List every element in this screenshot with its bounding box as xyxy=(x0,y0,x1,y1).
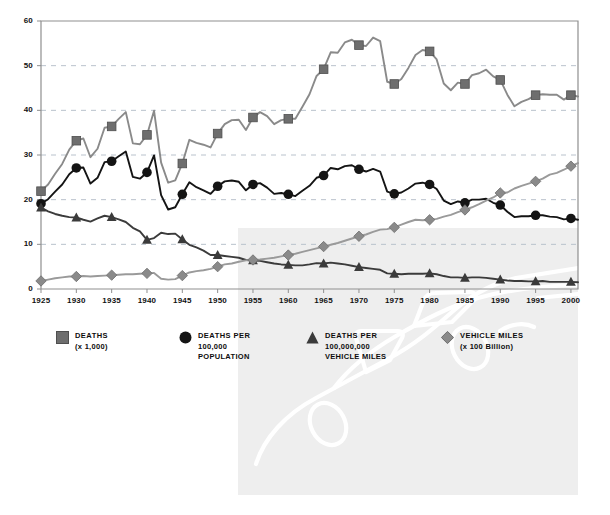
data-point-deaths_per_100k_pop-2000 xyxy=(566,214,576,224)
data-point-vehicle_miles-1980 xyxy=(424,215,434,225)
data-point-deaths-1930 xyxy=(72,136,81,145)
legend-title: DEATHS PER xyxy=(325,331,386,342)
line-chart: 0102030405060 19251930193519401945195019… xyxy=(0,0,610,305)
data-point-vehicle_miles-1925 xyxy=(36,276,46,286)
data-point-deaths-1940 xyxy=(143,131,152,140)
chart-legend: DEATHS (x 1,000) DEATHS PER 100,000 POPU… xyxy=(56,330,576,382)
legend-label-deaths: DEATHS (x 1,000) xyxy=(75,330,108,352)
diamond-marker-icon xyxy=(441,331,454,344)
series-line-deaths xyxy=(41,38,578,192)
legend-sub-1: (x 1,000) xyxy=(75,342,108,353)
y-tick-label-30: 30 xyxy=(11,150,33,159)
x-tick-label-1965: 1965 xyxy=(307,296,341,305)
data-point-deaths_per_100k_pop-1995 xyxy=(531,211,541,221)
data-point-vehicle_miles-1990 xyxy=(495,188,505,198)
legend-sub-2: POPULATION xyxy=(198,352,250,363)
legend-item-deaths-per-population[interactable]: DEATHS PER 100,000 POPULATION xyxy=(179,330,250,363)
x-tick-label-1960: 1960 xyxy=(271,296,305,305)
data-point-deaths_per_100k_pop-1965 xyxy=(319,171,329,181)
legend-label-deaths-per-population: DEATHS PER 100,000 POPULATION xyxy=(198,330,250,363)
x-tick-label-1950: 1950 xyxy=(201,296,235,305)
y-tick-label-20: 20 xyxy=(11,195,33,204)
legend-sub-1: 100,000,000 xyxy=(325,342,386,353)
data-point-deaths-1980 xyxy=(425,47,434,56)
data-point-deaths_per_100k_pop-1990 xyxy=(495,200,505,210)
data-point-deaths-1935 xyxy=(107,122,116,131)
data-point-vehicle_miles-1930 xyxy=(71,271,81,281)
x-tick-label-1970: 1970 xyxy=(342,296,376,305)
chart-page: 0102030405060 19251930193519401945195019… xyxy=(0,0,610,515)
square-marker-icon xyxy=(56,331,69,344)
data-point-deaths_per_100k_pop-1975 xyxy=(389,189,399,199)
data-point-deaths_per_100k_pop-1940 xyxy=(142,168,152,178)
data-point-deaths-1955 xyxy=(249,113,258,122)
data-point-vehicle_miles-1940 xyxy=(142,268,152,278)
triangle-marker-icon xyxy=(306,331,319,344)
legend-title: DEATHS xyxy=(75,331,108,342)
chart-plot-svg xyxy=(0,0,610,305)
legend-label-deaths-per-vehicle-miles: DEATHS PER 100,000,000 VEHICLE MILES xyxy=(325,330,386,363)
data-point-vehicle_miles-1950 xyxy=(212,261,222,271)
data-point-deaths_per_100k_pop-1980 xyxy=(425,180,435,190)
data-point-vehicle_miles-1970 xyxy=(354,231,364,241)
data-point-deaths_per_100k_pop-1950 xyxy=(213,181,223,191)
data-point-deaths_per_100k_pop-1930 xyxy=(72,163,82,173)
y-tick-label-40: 40 xyxy=(11,105,33,114)
series-line-deaths_per_100m_vmt xyxy=(41,208,578,283)
data-point-deaths-1965 xyxy=(319,65,328,74)
data-point-deaths-1970 xyxy=(355,41,364,50)
x-tick-label-1935: 1935 xyxy=(95,296,129,305)
data-point-vehicle_miles-1985 xyxy=(460,205,470,215)
legend-sub-2: VEHICLE MILES xyxy=(325,352,386,363)
data-point-vehicle_miles-1935 xyxy=(106,270,116,280)
data-point-deaths_per_100k_pop-1945 xyxy=(178,190,188,200)
data-point-deaths-2000 xyxy=(567,91,576,100)
data-point-deaths-1960 xyxy=(284,115,293,124)
x-tick-label-1940: 1940 xyxy=(130,296,164,305)
data-point-vehicle_miles-1975 xyxy=(389,222,399,232)
legend-item-deaths[interactable]: DEATHS (x 1,000) xyxy=(56,330,108,352)
data-point-deaths_per_100k_pop-1935 xyxy=(107,156,117,166)
data-point-vehicle_miles-1945 xyxy=(177,270,187,280)
legend-item-deaths-per-vehicle-miles[interactable]: DEATHS PER 100,000,000 VEHICLE MILES xyxy=(306,330,386,363)
legend-sub-1: (x 100 Billion) xyxy=(460,342,523,353)
data-point-deaths-1925 xyxy=(37,187,46,196)
legend-sub-1: 100,000 xyxy=(198,342,250,353)
data-point-deaths-1990 xyxy=(496,76,505,85)
x-tick-label-1945: 1945 xyxy=(165,296,199,305)
data-point-vehicle_miles-1995 xyxy=(530,176,540,186)
data-point-vehicle_miles-1960 xyxy=(283,250,293,260)
series-line-vehicle_miles xyxy=(41,163,578,281)
x-tick-label-1995: 1995 xyxy=(519,296,553,305)
data-point-deaths-1945 xyxy=(178,159,187,168)
y-tick-label-0: 0 xyxy=(11,284,33,293)
data-point-deaths-1995 xyxy=(531,91,540,100)
series-lines xyxy=(41,38,578,283)
y-tick-label-50: 50 xyxy=(11,61,33,70)
x-tick-label-1955: 1955 xyxy=(236,296,270,305)
legend-label-vehicle-miles: VEHICLE MILES (x 100 Billion) xyxy=(460,330,523,352)
data-point-vehicle_miles-1965 xyxy=(318,241,328,251)
data-point-deaths_per_100k_pop-1960 xyxy=(284,190,294,200)
data-point-deaths-1950 xyxy=(213,129,222,138)
x-tick-label-1925: 1925 xyxy=(24,296,58,305)
data-point-deaths_per_100k_pop-1970 xyxy=(354,164,364,174)
y-tick-label-60: 60 xyxy=(11,16,33,25)
x-tick-label-2000: 2000 xyxy=(554,296,588,305)
legend-item-vehicle-miles[interactable]: VEHICLE MILES (x 100 Billion) xyxy=(441,330,523,352)
x-tick-label-1990: 1990 xyxy=(483,296,517,305)
data-point-deaths-1975 xyxy=(390,80,399,89)
data-point-deaths_per_100k_pop-1955 xyxy=(248,180,258,190)
x-tick-label-1980: 1980 xyxy=(413,296,447,305)
x-tick-label-1985: 1985 xyxy=(448,296,482,305)
series-line-deaths_per_100k_pop xyxy=(41,151,578,219)
data-point-vehicle_miles-2000 xyxy=(566,161,576,171)
data-point-deaths-1985 xyxy=(461,80,470,89)
legend-title: VEHICLE MILES xyxy=(460,331,523,342)
legend-title: DEATHS PER xyxy=(198,331,250,342)
circle-marker-icon xyxy=(179,331,192,344)
x-tick-label-1930: 1930 xyxy=(59,296,93,305)
x-tick-label-1975: 1975 xyxy=(377,296,411,305)
y-tick-label-10: 10 xyxy=(11,239,33,248)
